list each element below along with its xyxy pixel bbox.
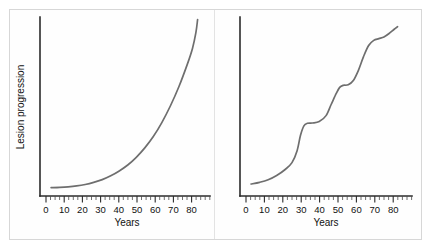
svg-text:30: 30 [95, 204, 106, 215]
plot-right-svg: 0 10 20 30 40 50 60 70 80 Years [216, 9, 422, 240]
svg-text:70: 70 [370, 204, 381, 215]
svg-text:40: 40 [314, 204, 325, 215]
svg-text:40: 40 [114, 204, 125, 215]
x-axis-ticks [46, 196, 210, 203]
svg-text:20: 20 [278, 204, 289, 215]
figure-container: 0 10 20 30 40 50 60 70 80 Years Lesion p… [0, 0, 431, 249]
svg-text:60: 60 [150, 204, 161, 215]
svg-text:0: 0 [243, 204, 248, 215]
svg-text:80: 80 [388, 204, 399, 215]
x-axis-title-right: Years [313, 217, 338, 228]
svg-text:80: 80 [186, 204, 197, 215]
svg-text:10: 10 [59, 204, 70, 215]
panel-divider [214, 10, 215, 239]
svg-text:30: 30 [296, 204, 307, 215]
svg-text:60: 60 [351, 204, 362, 215]
svg-text:50: 50 [132, 204, 143, 215]
svg-text:0: 0 [43, 204, 48, 215]
x-tick-labels: 0 10 20 30 40 50 60 70 80 [43, 204, 197, 215]
x-tick-labels-right: 0 10 20 30 40 50 60 70 80 [243, 204, 398, 215]
svg-text:70: 70 [168, 204, 179, 215]
panel-right-stepwise: 0 10 20 30 40 50 60 70 80 Years [216, 9, 422, 240]
plot-left-svg: 0 10 20 30 40 50 60 70 80 Years Lesion p… [9, 9, 215, 240]
svg-text:10: 10 [259, 204, 270, 215]
x-axis-title-left: Years [114, 217, 139, 228]
y-axis-title: Lesion progression [15, 65, 26, 150]
panel-left-exponential: 0 10 20 30 40 50 60 70 80 Years Lesion p… [9, 9, 215, 240]
exponential-curve [51, 20, 197, 188]
stepwise-curve [251, 27, 397, 184]
x-axis-ticks-right [246, 196, 412, 203]
svg-text:50: 50 [333, 204, 344, 215]
svg-text:20: 20 [77, 204, 88, 215]
